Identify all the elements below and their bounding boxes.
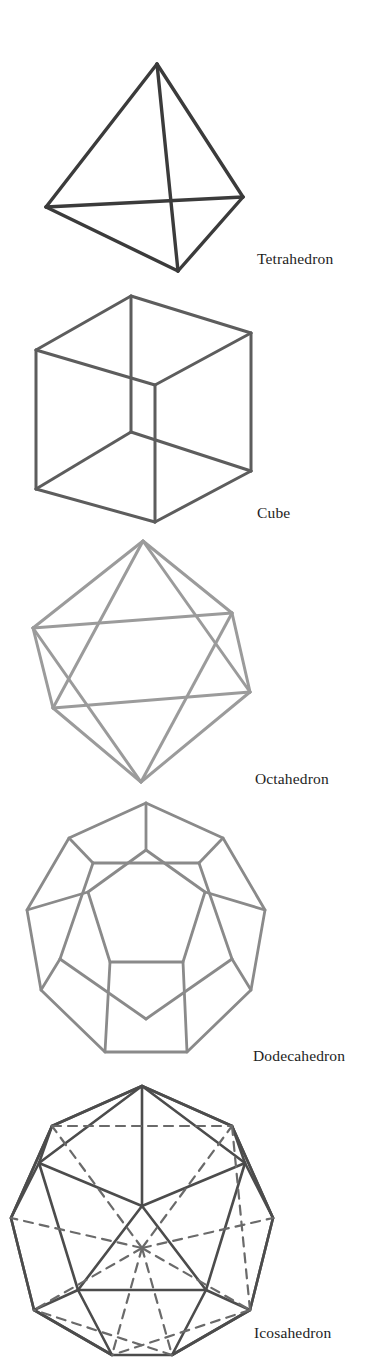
octa-edge-top-left — [33, 541, 143, 628]
platonic-solids-page: Tetrahedron Cube — [0, 0, 391, 1368]
dodeca-rear-link-4 — [232, 959, 251, 990]
dodeca-rear-link-2 — [199, 838, 223, 863]
tetrahedron-drawing — [0, 0, 391, 280]
cube-edge-bot-back-left-hidden — [36, 432, 131, 489]
tetra-edge-bottom-right — [178, 197, 243, 271]
caption-icosahedron: Icosahedron — [254, 1324, 331, 1342]
dodeca-rear-edge-right — [199, 863, 232, 959]
octa-edge-bottom-right — [141, 692, 250, 782]
caption-cube: Cube — [257, 504, 290, 522]
figure-tetrahedron: Tetrahedron — [0, 0, 391, 280]
tetra-edge-apex-left — [46, 64, 157, 207]
cube-edge-top-right-back — [131, 296, 251, 333]
octahedron-drawing — [0, 530, 391, 800]
cube-edge-bot-front-right — [155, 471, 251, 522]
figure-octahedron: Octahedron — [0, 530, 391, 800]
icosa-spoke-upper-left — [39, 1163, 142, 1206]
dodeca-spoke-4 — [105, 962, 110, 1052]
tetra-edge-left-bottom — [46, 207, 178, 271]
icosa-hidden-chord-bottom — [112, 1310, 250, 1355]
icosa-hidden-chord-bottomleft — [34, 1310, 172, 1355]
icosa-hidden-spoke-5 — [112, 1248, 142, 1355]
icosa-band-6 — [11, 1126, 52, 1218]
dodeca-rear-edge-left — [60, 863, 93, 959]
icosa-spoke-lower-right — [142, 1206, 206, 1290]
figure-dodecahedron: Dodecahedron — [0, 795, 391, 1075]
caption-tetrahedron: Tetrahedron — [257, 250, 333, 268]
icosa-band-5 — [11, 1218, 34, 1310]
icosa-band-1 — [232, 1126, 273, 1218]
icosa-spoke-upper-right — [142, 1163, 245, 1206]
dodeca-rear-edge-botleft — [60, 959, 146, 1019]
tetra-edge-apex-bottom — [157, 64, 178, 271]
cube-edge-bot-left-front — [36, 489, 155, 522]
icosa-hidden-spoke-4 — [142, 1248, 172, 1355]
figure-cube: Cube — [0, 280, 391, 530]
dodeca-rear-link-3 — [41, 959, 60, 990]
cube-edge-bot-back-right-hidden — [131, 432, 251, 471]
dodeca-rear-edge-botright — [146, 959, 232, 1019]
figure-icosahedron: Icosahedron — [0, 1078, 391, 1368]
caption-dodecahedron: Dodecahedron — [253, 1047, 345, 1065]
cube-edge-top-front-right — [155, 333, 251, 385]
dodecahedron-drawing — [0, 795, 391, 1075]
caption-octahedron: Octahedron — [255, 770, 329, 788]
dodeca-inner-pentagon — [88, 850, 205, 962]
tetra-edge-left-right — [46, 197, 243, 207]
icosa-spoke-lower-left — [78, 1206, 142, 1290]
cube-edge-top-back-left — [36, 296, 131, 350]
dodeca-rear-link-1 — [69, 838, 93, 863]
cube-edge-top-left-front — [36, 350, 155, 385]
icosa-band-2 — [250, 1218, 273, 1310]
cube-drawing — [0, 280, 391, 530]
icosahedron-drawing — [0, 1078, 391, 1368]
dodeca-spoke-3 — [183, 962, 187, 1052]
